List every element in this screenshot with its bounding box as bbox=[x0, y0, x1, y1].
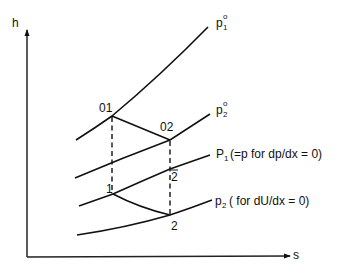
y-axis-label: h bbox=[12, 16, 19, 30]
svg-text:P: P bbox=[216, 147, 224, 161]
point-label-1: 1 bbox=[106, 182, 113, 196]
h-s-diagram: h s 01 02 1 2 2 p 1 o p 2 o P 1 (=p for … bbox=[0, 0, 361, 273]
svg-text:o: o bbox=[223, 99, 228, 108]
svg-text:1: 1 bbox=[223, 23, 228, 32]
svg-text:o: o bbox=[223, 12, 228, 21]
svg-text:p: p bbox=[215, 194, 222, 208]
svg-text:p: p bbox=[216, 16, 223, 30]
point-label-2bar: 2 bbox=[171, 170, 178, 184]
curve-label-p1-stagnation: p 1 o bbox=[216, 12, 228, 32]
svg-text:(=p for dp/dx = 0): (=p for dp/dx = 0) bbox=[230, 147, 322, 161]
curve-p2-stagnation bbox=[75, 114, 210, 178]
svg-text:( for dU/dx = 0): ( for dU/dx = 0) bbox=[229, 194, 309, 208]
x-axis-label: s bbox=[293, 248, 299, 262]
point-label-01: 01 bbox=[99, 101, 113, 115]
svg-text:2: 2 bbox=[222, 201, 227, 210]
curve-p2 bbox=[77, 200, 212, 235]
curve-label-p2-stagnation: p 2 o bbox=[216, 99, 228, 119]
curve-label-p2: p 2 ( for dU/dx = 0) bbox=[215, 194, 309, 210]
svg-text:2: 2 bbox=[171, 170, 178, 184]
point-label-2: 2 bbox=[171, 219, 178, 233]
x-axis bbox=[27, 256, 290, 257]
process-line-1-2 bbox=[113, 194, 170, 215]
curve-p1-stagnation bbox=[76, 27, 208, 140]
svg-text:2: 2 bbox=[223, 110, 228, 119]
point-label-02: 02 bbox=[160, 120, 174, 134]
svg-text:p: p bbox=[216, 103, 223, 117]
svg-text:1: 1 bbox=[224, 154, 229, 163]
curve-label-p1: P 1 (=p for dp/dx = 0) bbox=[216, 147, 322, 163]
curve-p1 bbox=[79, 155, 210, 206]
